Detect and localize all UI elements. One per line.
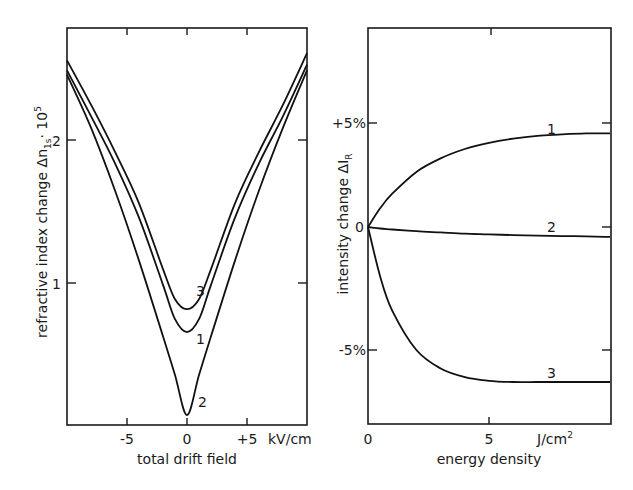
right-x-unit-base: J/cm [536,431,567,447]
right-y-tick-label: -5% [339,342,366,358]
right-y-label-main: intensity change ΔI [335,160,351,295]
left-y-tick-label: 2 [52,133,61,149]
curve-2 [368,227,610,237]
left-x-tick-label: +5 [237,431,258,447]
left-y-label-suffix: · 10 [34,112,50,139]
curve-2 [67,70,307,415]
left-y-label-main: refractive index change Δn [34,149,50,338]
right-x-tick-label: 0 [364,431,373,447]
curve-label-1: 1 [196,331,205,347]
curve-3 [368,227,610,382]
curve-label-2: 2 [198,394,207,410]
right-y-label-sub: R [344,153,354,159]
curve-label-3: 3 [547,365,556,381]
left-x-tick-label: 0 [183,431,192,447]
curve-3 [67,53,307,309]
left-chart: 2 1 -5 0 +5 kV/cm total drift field refr… [33,28,312,467]
left-y-axis-label: refractive index change Δn1s· 105 [33,106,53,338]
curve-1 [67,65,307,333]
right-x-axis-label: energy density [437,451,542,467]
right-plot-frame [368,28,611,424]
left-y-label-sub: 1s [43,138,53,149]
left-y-label-exp: 5 [33,106,43,112]
curve-label-3: 3 [196,283,205,299]
left-y-tick-label: 1 [52,276,61,292]
left-x-tick-label: -5 [120,431,134,447]
right-y-tick-label: +5% [332,115,366,131]
right-chart: +5% 0 -5% 0 5 J/cm2 energy density inten… [332,28,611,467]
svg-text:refractive index change Δn1s·: refractive index change Δn1s· 105 [33,106,53,338]
curve-label-2: 2 [547,219,556,235]
figure: 2 1 -5 0 +5 kV/cm total drift field refr… [0,0,633,490]
left-plot-frame [67,28,307,425]
svg-text:intensity change ΔIR: intensity change ΔIR [335,153,354,294]
right-x-tick-label: 5 [485,431,494,447]
curve-1 [368,133,610,227]
right-y-tick-label: 0 [355,219,364,235]
right-x-unit-exp: 2 [567,430,573,440]
right-x-unit: J/cm2 [536,430,573,447]
right-y-axis-label: intensity change ΔIR [335,153,354,294]
curve-label-1: 1 [547,121,556,137]
left-x-axis-label: total drift field [137,451,237,467]
left-x-unit: kV/cm [268,431,312,447]
